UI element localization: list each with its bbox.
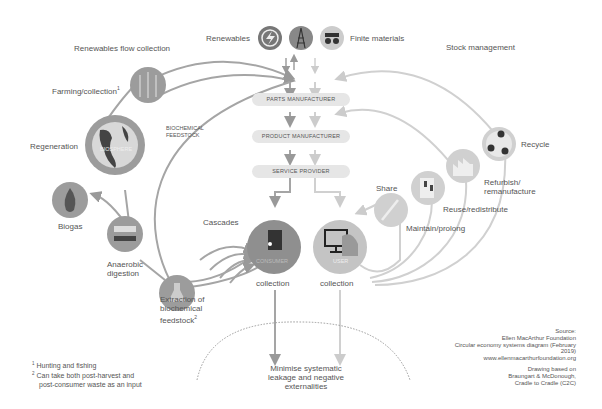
biosphere-globe-icon bbox=[85, 115, 145, 175]
footnote-2-text-b: post-consumer waste as an input bbox=[32, 381, 142, 389]
reuse-icon bbox=[411, 171, 445, 205]
recycle-label: Recycle bbox=[521, 140, 549, 149]
source-org: Ellen MacArthur Foundation bbox=[455, 335, 576, 342]
refurbish-factory-icon bbox=[446, 149, 480, 183]
minimise-leakage-label: Minimise systematic leakage and negative… bbox=[266, 364, 346, 391]
finite-materials-label: Finite materials bbox=[350, 34, 404, 43]
source-block: Source: Ellen MacArthur Foundation Circu… bbox=[455, 328, 576, 386]
mining-truck-icon bbox=[320, 26, 344, 50]
reuse-redistribute-label: Reuse/redistribute bbox=[443, 205, 508, 214]
biogas-label: Biogas bbox=[58, 222, 82, 231]
biosphere-label: BIOSPHERE bbox=[100, 146, 132, 154]
footnote-2: 2 Can take both post-harvest and bbox=[32, 370, 142, 380]
consumer-label: CONSUMER bbox=[256, 258, 288, 266]
consumer-icon bbox=[247, 220, 301, 274]
farming-icon bbox=[130, 67, 166, 103]
recycle-icon bbox=[482, 127, 516, 161]
user-label: USER bbox=[333, 258, 348, 266]
extraction-label: Extraction of biochemical feedstock2 bbox=[160, 295, 204, 325]
footnote-1-num: 1 bbox=[32, 361, 35, 366]
user-collection-label: collection bbox=[320, 279, 353, 288]
anaerobic-digestion-label: Anaerobic digestion bbox=[107, 260, 143, 278]
service-provider-box: SERVICE PROVIDER bbox=[252, 165, 350, 178]
drawing-based-on: Drawing based on bbox=[455, 366, 576, 373]
biochemical-feedstock-label: BIOCHEMICAL FEEDSTOCK bbox=[166, 125, 204, 138]
farming-footnote-ref: 1 bbox=[117, 85, 120, 91]
share-wrench-icon bbox=[374, 193, 408, 227]
parts-manufacturer-box: PARTS MANUFACTURER bbox=[252, 93, 350, 106]
farming-text: Farming/collection bbox=[52, 87, 117, 96]
oil-derrick-icon bbox=[289, 26, 313, 50]
technical-flows bbox=[315, 71, 505, 360]
cascades-label: Cascades bbox=[203, 218, 239, 227]
footnotes: 1 Hunting and fishing 2 Can take both po… bbox=[32, 360, 142, 389]
renewables-icon bbox=[258, 26, 282, 50]
drawing-book: Cradle to Cradle (C2C) bbox=[455, 380, 576, 387]
renewables-label: Renewables bbox=[206, 34, 250, 43]
footnote-2-text-a: Can take both post-harvest and bbox=[36, 373, 134, 380]
product-manufacturer-box: PRODUCT MANUFACTURER bbox=[252, 130, 350, 143]
consumer-collection-label: collection bbox=[256, 279, 289, 288]
extraction-text: Extraction of biochemical feedstock bbox=[160, 295, 204, 325]
regeneration-label: Regeneration bbox=[30, 142, 78, 151]
refurbish-label: Refurbish/ remanufacture bbox=[484, 178, 536, 196]
source-url: www.ellenmacarthurfoundation.org bbox=[455, 355, 576, 362]
extraction-footnote-ref: 2 bbox=[194, 314, 197, 320]
source-title: Circular economy systems diagram (Februa… bbox=[455, 342, 576, 349]
footnote-2-num: 2 bbox=[32, 371, 35, 376]
renewables-flow-collection-label: Renewables flow collection bbox=[74, 44, 170, 53]
source-year: 2019) bbox=[455, 348, 576, 355]
share-label: Share bbox=[376, 184, 397, 193]
drawing-authors: Braungart & McDonough, bbox=[455, 373, 576, 380]
source-heading: Source: bbox=[455, 328, 576, 335]
maintain-prolong-label: Maintain/prolong bbox=[406, 224, 465, 233]
farming-label: Farming/collection1 bbox=[52, 84, 120, 96]
anaerobic-digester-icon bbox=[107, 216, 143, 252]
footnote-1-text: Hunting and fishing bbox=[36, 362, 96, 369]
user-computer-icon bbox=[313, 220, 367, 274]
biogas-flame-icon bbox=[52, 182, 88, 218]
footnote-1: 1 Hunting and fishing bbox=[32, 360, 142, 370]
stock-management-label: Stock management bbox=[446, 43, 515, 52]
